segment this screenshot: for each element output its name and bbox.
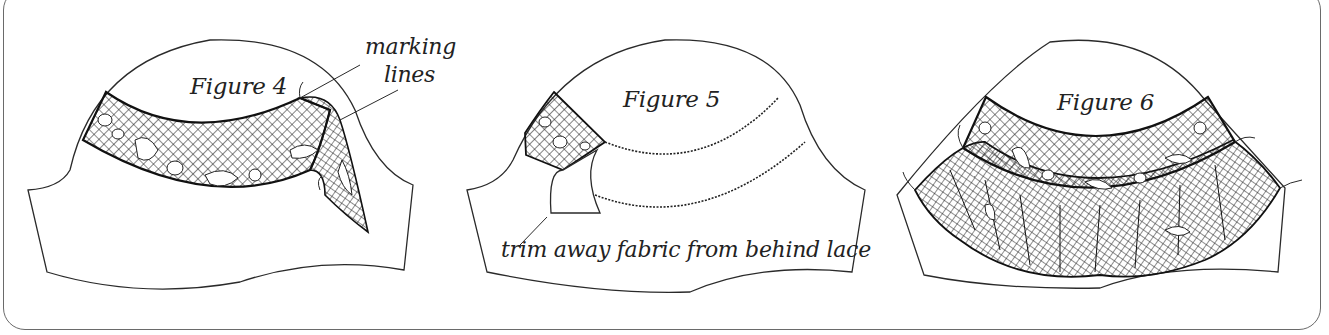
figure-5-title: Figure 5: [623, 86, 720, 112]
figure-6-title: Figure 6: [1057, 89, 1154, 115]
figure-4-title: Figure 4: [190, 73, 287, 99]
figure-6-drawing: [897, 40, 1302, 288]
marking-lines-label-line1: marking: [365, 34, 456, 59]
trim-away-label: trim away fabric from behind lace: [501, 237, 871, 262]
marking-lines-label-line2: lines: [384, 62, 435, 87]
sleeve-illustrations: [0, 0, 1329, 335]
